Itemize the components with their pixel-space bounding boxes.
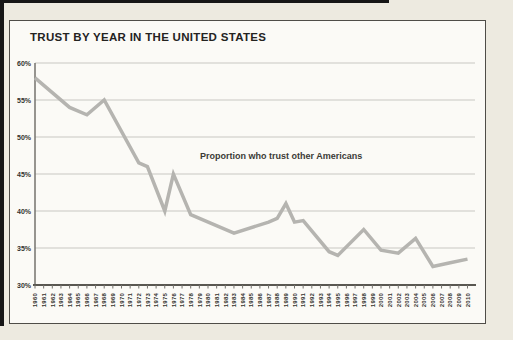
y-axis-tick-label: 30% [17, 282, 32, 289]
x-axis-tick-label: 1997 [352, 293, 358, 308]
x-axis-tick-label: 1996 [344, 293, 350, 308]
x-axis-tick-label: 1970 [119, 293, 125, 308]
chart-title: TRUST BY YEAR IN THE UNITED STATES [30, 31, 266, 43]
x-axis-tick-label: 1995 [335, 293, 341, 308]
x-axis-tick-label: 1978 [188, 293, 194, 308]
x-axis-tick-label: 1999 [370, 293, 376, 308]
y-axis-tick-label: 45% [17, 171, 32, 178]
x-axis-tick-label: 1981 [214, 293, 220, 308]
x-axis-tick-label: 1990 [292, 293, 298, 308]
x-axis-tick-label: 1974 [153, 293, 159, 308]
x-axis-tick-label: 2001 [387, 293, 393, 308]
trust-data-line [35, 78, 468, 267]
x-axis-tick-label: 2002 [396, 293, 402, 308]
x-axis-tick-label: 1993 [318, 293, 324, 308]
x-axis-tick-label: 2010 [465, 293, 471, 308]
x-axis-tick-label: 1982 [223, 293, 229, 308]
x-axis-tick-label: 1991 [300, 293, 306, 308]
x-axis-tick-label: 1979 [197, 293, 203, 308]
x-axis-tick-label: 2009 [456, 293, 462, 308]
x-axis-tick-label: 2006 [430, 293, 436, 308]
x-axis-tick-label: 2003 [404, 293, 410, 308]
x-axis-tick-label: 1975 [162, 293, 168, 308]
x-axis-tick-label: 1980 [205, 293, 211, 308]
x-axis-tick-label: 1985 [248, 293, 254, 308]
x-axis-tick-label: 2008 [447, 293, 453, 308]
x-axis-tick-label: 1962 [50, 293, 56, 308]
x-axis-tick-label: 2004 [413, 293, 419, 308]
x-axis-tick-label: 1988 [274, 293, 280, 308]
x-axis-tick-label: 1986 [257, 293, 263, 308]
x-axis-tick-label: 1964 [67, 293, 73, 308]
x-axis-tick-label: 1984 [240, 293, 246, 308]
x-axis-tick-label: 1994 [326, 293, 332, 308]
x-axis-tick-label: 1989 [283, 293, 289, 308]
x-axis-tick-label: 1998 [361, 293, 367, 308]
x-axis-tick-label: 1987 [266, 293, 272, 308]
page-background: 60%55%50%45%40%35%30%1960196119621963196… [0, 0, 513, 340]
y-axis-tick-label: 35% [17, 245, 32, 252]
x-axis-tick-label: 1960 [32, 293, 38, 308]
x-axis-tick-label: 1969 [110, 293, 116, 308]
x-axis-tick-label: 1965 [75, 293, 81, 308]
x-axis-tick-label: 1967 [93, 293, 99, 308]
chart-annotation: Proportion who trust other Americans [200, 151, 362, 161]
x-axis-tick-label: 2000 [378, 293, 384, 308]
x-axis-tick-label: 1968 [101, 293, 107, 308]
x-axis-tick-label: 2007 [439, 293, 445, 308]
x-axis-tick-label: 1971 [127, 293, 133, 308]
x-axis-tick-label: 1963 [58, 293, 64, 308]
x-axis-tick-label: 1977 [179, 293, 185, 308]
trust-line-chart: 60%55%50%45%40%35%30%1960196119621963196… [0, 0, 513, 340]
x-axis-tick-label: 1983 [231, 293, 237, 308]
x-axis-tick-label: 1976 [171, 293, 177, 308]
x-axis-tick-label: 1973 [145, 293, 151, 308]
y-axis-tick-label: 40% [17, 208, 32, 215]
x-axis-tick-label: 1966 [84, 293, 90, 308]
y-axis-tick-label: 60% [17, 60, 32, 67]
x-axis-tick-label: 1961 [41, 293, 47, 308]
x-axis-tick-label: 1972 [136, 293, 142, 308]
y-axis-tick-label: 55% [17, 97, 32, 104]
x-axis-tick-label: 1992 [309, 293, 315, 308]
y-axis-tick-label: 50% [17, 134, 32, 141]
x-axis-tick-label: 2005 [421, 293, 427, 308]
